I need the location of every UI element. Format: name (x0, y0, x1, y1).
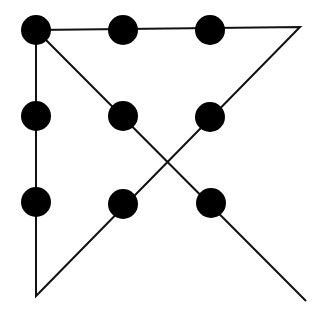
nine-dots-diagram (0, 0, 317, 317)
dot-6 (195, 102, 225, 132)
dot-4 (21, 101, 51, 131)
dot-3 (195, 15, 225, 45)
dot-1 (21, 15, 51, 45)
dot-7 (21, 187, 51, 217)
dot-5 (108, 101, 138, 131)
dot-8 (108, 189, 138, 219)
background (0, 0, 317, 317)
dot-9 (196, 188, 226, 218)
dot-2 (108, 15, 138, 45)
